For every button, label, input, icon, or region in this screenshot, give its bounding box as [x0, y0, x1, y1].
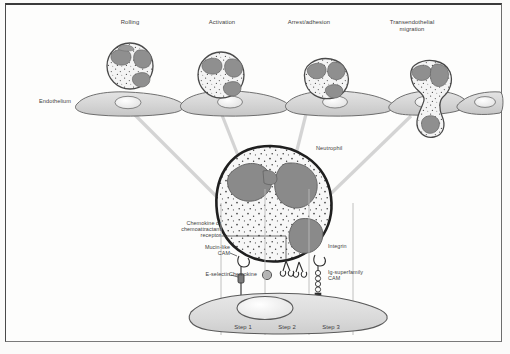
stage-label-arrest-adhesion: Arrest/adhesion	[273, 19, 345, 26]
figure-canvas: Rolling Activation Arrest/adhesion Trans…	[15, 13, 504, 343]
nucleus-lobe	[430, 64, 448, 87]
chemokine-receptor-label: Chemokine or chemoattractant receptor	[155, 220, 221, 239]
nucleus-lobe	[307, 63, 326, 79]
figure-page: Rolling Activation Arrest/adhesion Trans…	[0, 0, 510, 354]
stage-label-rolling: Rolling	[99, 19, 161, 26]
nucleus-lobe	[132, 73, 150, 87]
chemokine-receptor-icon	[280, 261, 306, 277]
nucleus-lobe	[111, 49, 131, 65]
ig-superfamily-cam-label: Ig-superfamily CAM	[328, 269, 388, 281]
nucleus-lobe	[412, 65, 431, 80]
stage-label-activation: Activation	[191, 19, 253, 26]
step-label-3: Step 3	[311, 324, 351, 331]
chemokine-label: Chemokine	[211, 271, 257, 277]
endothelial-nucleus	[475, 97, 496, 108]
scan-page-frame: Rolling Activation Arrest/adhesion Trans…	[5, 3, 502, 342]
neutrophil-activation	[198, 52, 244, 98]
stage-label-transendothelial-migration: Transendothelial migration	[375, 19, 449, 32]
step-label-2: Step 2	[267, 324, 307, 331]
nucleus-lobe	[223, 82, 241, 96]
neutrophil-arrest	[304, 59, 348, 99]
integrin-icon	[314, 255, 326, 271]
endothelium-label: Endothelium	[17, 98, 71, 105]
nucleus-lobe	[202, 58, 222, 74]
nucleus-lobe	[134, 50, 152, 68]
nucleus-lobe	[325, 85, 343, 98]
step-label-1: Step 1	[223, 324, 263, 331]
neutrophil-detail-cell	[216, 146, 331, 261]
nucleus-lobe	[328, 62, 345, 80]
mucin-like-cam-label: Mucin-like CAM	[180, 244, 230, 256]
nucleus-lobe	[421, 116, 439, 134]
nucleus-lobe	[289, 219, 323, 254]
neutrophil-rolling	[107, 43, 153, 89]
endothelial-nucleus	[115, 96, 141, 108]
nucleus-lobe	[225, 59, 243, 77]
nucleus-lobe	[275, 163, 318, 208]
neutrophil-label: Neutrophil	[316, 145, 342, 152]
extravasation-diagram	[15, 13, 504, 343]
endothelial-nucleus	[237, 297, 293, 320]
chemokine-icon	[262, 270, 271, 279]
integrin-label: Integrin	[328, 243, 347, 249]
